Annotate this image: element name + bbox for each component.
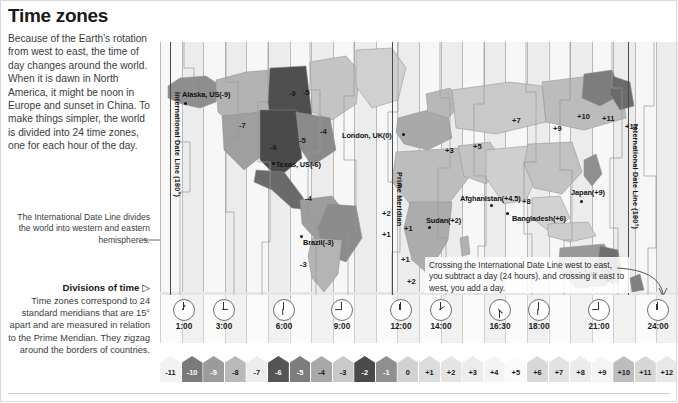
prime-meridian-line [392,42,393,295]
city-marker-dot [490,204,493,207]
clock-cell: 12:00 [381,295,421,331]
legend-swatch-label: +2 [447,368,455,382]
clock-time-label: 3:00 [204,322,244,331]
clock-row-line [635,295,636,343]
city-label: Afghanistan(+4.5) [460,194,521,203]
legend-swatch-label: +10 [617,368,630,382]
date-line-callout: Crossing the International Date Line wes… [425,257,630,293]
zone-offset-number: +1 [401,255,410,264]
clock-minute-hand [400,302,401,310]
clock-face-icon [213,299,235,321]
legend-swatch[interactable]: -6 [268,356,289,382]
callout-leader-line [615,254,675,295]
clock-time-label: 12:00 [381,322,421,331]
legend-swatch[interactable]: +11 [635,356,656,382]
clock-cell: 18:00 [519,295,559,331]
zone-offset-number: -6 [270,143,277,152]
legend-swatch-label: +9 [598,368,606,382]
legend-swatch-label: -7 [254,368,261,382]
legend-swatch[interactable]: +4 [484,356,505,382]
legend-swatch-label: +5 [512,368,520,382]
zone-offset-number: +8 [522,197,531,206]
world-time-zone-map: Later in the dayMiddayEarlier in the day… [160,42,678,295]
zone-offset-number: 0 [398,181,402,190]
legend-swatch[interactable]: -4 [311,356,332,382]
clock-face-icon [528,299,550,321]
legend-swatch[interactable]: +6 [527,356,548,382]
clock-time-label: 6:00 [264,322,304,331]
legend-swatch[interactable]: -10 [182,356,203,382]
zone-offset-number: +7 [512,116,521,125]
legend-swatch[interactable]: +1 [419,356,440,382]
city-marker-dot [272,162,275,165]
clock-face-icon [647,299,669,321]
zone-offset-number: +2 [382,209,391,218]
legend-swatch[interactable]: -5 [290,356,311,382]
legend-swatch-label: +4 [490,368,498,382]
legend-swatch[interactable]: +7 [549,356,570,382]
clock-cell: 9:00 [322,295,362,331]
clock-face-icon [430,299,452,321]
zone-offset-number: +1 [404,224,413,233]
clock-minute-hand [598,302,599,310]
city-marker-dot [428,226,431,229]
legend-swatch-label: -8 [232,368,239,382]
zone-offset-number: -4 [320,127,327,136]
legend-swatch[interactable]: -7 [246,356,267,382]
page-title: Time zones [8,6,160,27]
legend-swatch[interactable]: +5 [505,356,526,382]
clock-minute-hand [657,302,658,310]
legend-swatch[interactable]: +3 [462,356,483,382]
legend-swatch[interactable]: -1 [376,356,397,382]
legend-swatch-label: 0 [406,368,410,382]
divisions-of-time-label: Divisions of time [63,282,140,293]
clock-cell: 24:00 [638,295,678,331]
clock-row-line [376,295,377,343]
timezone-legend-scale: -11-10-9-8-7-6-5-4-3-2-10+1+2+3+4+5+6+7+… [160,352,678,386]
zone-offset-number: -5 [303,88,310,97]
legend-swatch[interactable]: -8 [225,356,246,382]
legend-swatch[interactable]: +12 [656,356,677,382]
city-marker-dot [580,200,583,203]
clock-minute-hand [341,302,342,310]
clock-hour-hand [537,310,538,316]
infographic-root: Time zones Because of the Earth's rotati… [0,0,678,403]
zone-offset-number: +5 [473,142,482,151]
zone-offset-number: -7 [239,121,246,130]
clock-time-label: 16:30 [480,322,520,331]
clock-face-icon [273,299,295,321]
legend-swatch[interactable]: -9 [203,356,224,382]
zone-offset-number: +2 [407,277,416,286]
legend-swatch-label: -6 [275,368,282,382]
legend-swatch[interactable]: +10 [613,356,634,382]
bottom-divider [8,393,670,394]
clock-cell: 1:00 [164,295,204,331]
legend-swatch[interactable]: -3 [333,356,354,382]
legend-swatch[interactable]: -2 [354,356,375,382]
clock-minute-hand [223,302,224,310]
legend-swatch-label: +12 [661,368,674,382]
clock-cell: 21:00 [579,295,619,331]
legend-swatch[interactable]: 0 [397,356,418,382]
divisions-of-time-heading: Divisions of time▷ [0,282,150,293]
legend-swatch[interactable]: +2 [441,356,462,382]
clock-face-icon [331,299,353,321]
zone-offset-number: +9 [553,124,562,133]
clock-minute-hand [538,302,539,310]
clock-minute-hand [440,302,441,310]
city-marker-dot [402,133,405,136]
clock-hour-hand [282,310,283,316]
clock-cell: 14:00 [421,295,461,331]
legend-swatch[interactable]: -11 [160,356,181,382]
clock-time-label: 9:00 [322,322,362,331]
clock-row-line [160,295,161,343]
legend-swatch-label: +8 [576,368,584,382]
clock-minute-hand [499,310,500,318]
legend-swatch[interactable]: +9 [592,356,613,382]
clock-minute-hand [183,302,184,310]
city-label: Bangladesh(+6) [512,214,566,223]
city-label: Brazil(-3) [303,238,334,247]
zone-offset-number: +12 [625,122,638,131]
legend-swatch[interactable]: +8 [570,356,591,382]
date-line-note: The International Date Line divides the … [16,212,150,246]
